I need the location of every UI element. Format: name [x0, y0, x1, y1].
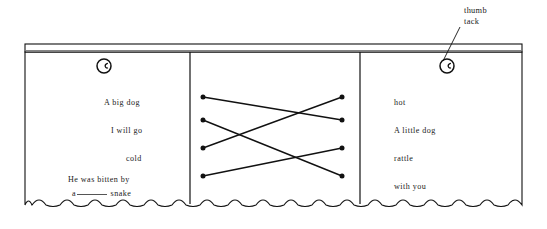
- chart-top-rail: [25, 44, 522, 52]
- blank-suffix: snake: [111, 189, 132, 198]
- match-dot-R2[interactable]: [340, 118, 345, 123]
- figure-canvas: thumb tack A big dogI will gocoldHe was …: [0, 0, 547, 229]
- match-dot-R1[interactable]: [340, 95, 345, 100]
- match-dot-L3[interactable]: [201, 146, 206, 151]
- left-item-2: I will go: [111, 127, 142, 135]
- thumbtack-callout: thumb tack: [464, 6, 487, 27]
- thumbtack-right-icon[interactable]: [440, 59, 454, 73]
- right-item-2: A little dog: [394, 127, 436, 135]
- blank-underline[interactable]: [77, 194, 107, 195]
- left-item-1: A big dog: [104, 99, 140, 107]
- left-item-4: He was bitten by: [68, 176, 130, 184]
- match-dot-R4[interactable]: [340, 174, 345, 179]
- right-item-4: with you: [394, 183, 426, 191]
- fill-in-blank-line: a snake: [72, 190, 131, 198]
- thumbtack-left-icon[interactable]: [97, 59, 111, 73]
- blank-prefix: a: [72, 189, 76, 198]
- match-dot-L2[interactable]: [201, 118, 206, 123]
- callout-line-1: thumb: [464, 6, 487, 17]
- match-dot-R3[interactable]: [340, 146, 345, 151]
- match-dot-L1[interactable]: [201, 95, 206, 100]
- match-dot-L4[interactable]: [201, 174, 206, 179]
- right-item-1: hot: [394, 99, 406, 107]
- callout-line-2: tack: [464, 17, 487, 28]
- left-item-3: cold: [126, 155, 142, 163]
- right-item-3: rattle: [394, 155, 413, 163]
